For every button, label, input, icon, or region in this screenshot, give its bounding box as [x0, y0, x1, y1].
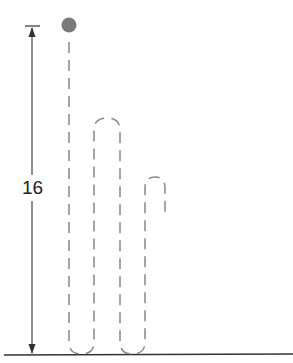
- bounce-diagram: [0, 0, 293, 363]
- ball: [62, 18, 77, 33]
- ground-line: [4, 354, 293, 355]
- height-label: 16: [22, 175, 43, 201]
- trajectory-path: [69, 42, 165, 354]
- arrow-down-icon: [29, 344, 36, 354]
- arrow-up-icon: [29, 27, 36, 37]
